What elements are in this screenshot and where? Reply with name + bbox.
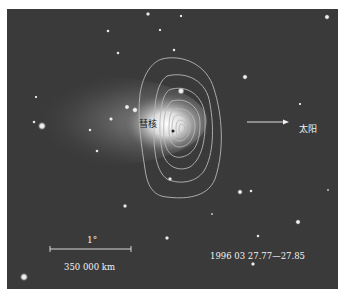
nucleus-label: 彗核	[139, 120, 157, 129]
comet-image-graphics	[7, 9, 338, 289]
sun-label: 太阳	[299, 125, 317, 134]
scale-angle-label: 1°	[87, 236, 97, 245]
nucleus-marker	[172, 130, 175, 133]
scale-distance-label: 350 000 km	[64, 263, 115, 272]
comet-coma	[122, 91, 212, 157]
observation-date-label: 1996 03 27.77—27.85	[210, 252, 305, 261]
scale-bar	[50, 246, 131, 252]
comet-image: 彗核 太阳 1° 350 000 km 1996 03 27.77—27.85	[7, 9, 338, 289]
sun-direction-arrow	[247, 120, 289, 125]
